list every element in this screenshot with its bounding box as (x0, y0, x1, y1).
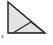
figure-container: s (0, 0, 53, 45)
corner-label-text: s (1, 33, 4, 40)
geometry-diagram (0, 0, 53, 45)
